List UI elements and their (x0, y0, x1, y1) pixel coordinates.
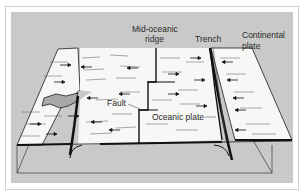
label-trench: Trench (195, 35, 221, 44)
label-continental-plate-line2: plate (242, 42, 260, 51)
label-mid-oceanic-ridge-line1: Mid-oceanic (132, 25, 178, 34)
label-mid-oceanic-ridge-line2: ridge (145, 35, 164, 44)
label-fault: Fault (107, 99, 126, 108)
label-oceanic-plate: Oceanic plate (152, 113, 204, 122)
subduction-left (70, 96, 78, 155)
oceanic-plate-surface (78, 48, 222, 145)
label-continental-plate-line1: Continental (242, 31, 285, 40)
